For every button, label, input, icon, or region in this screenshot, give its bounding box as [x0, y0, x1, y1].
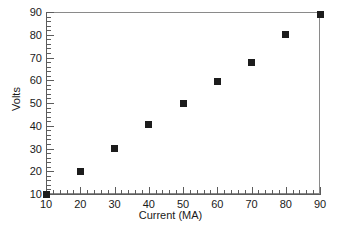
y-minor-tick — [47, 71, 51, 72]
x-minor-tick — [306, 190, 307, 194]
x-minor-tick — [128, 190, 129, 194]
y-major-tick — [47, 171, 54, 172]
y-minor-tick — [47, 130, 51, 131]
y-minor-tick — [47, 139, 51, 140]
x-major-tick — [252, 187, 253, 194]
y-minor-tick — [47, 85, 51, 86]
x-minor-tick — [101, 190, 102, 194]
y-tick-label: 20 — [23, 166, 42, 177]
y-minor-tick — [47, 94, 51, 95]
y-major-tick — [47, 126, 54, 127]
y-minor-tick — [47, 62, 51, 63]
x-minor-tick — [190, 190, 191, 194]
x-minor-tick — [94, 190, 95, 194]
y-minor-tick — [47, 185, 51, 186]
x-minor-tick — [108, 190, 109, 194]
data-point — [248, 59, 255, 66]
y-tick-label: 50 — [23, 98, 42, 109]
y-major-tick — [47, 12, 54, 13]
y-minor-tick — [47, 98, 51, 99]
y-tick-label: 40 — [23, 120, 42, 131]
y-minor-tick — [47, 48, 51, 49]
y-minor-tick — [47, 162, 51, 163]
y-minor-tick — [47, 30, 51, 31]
y-minor-tick — [47, 112, 51, 113]
x-minor-tick — [135, 190, 136, 194]
y-minor-tick — [47, 67, 51, 68]
y-minor-tick — [47, 108, 51, 109]
x-minor-tick — [238, 190, 239, 194]
x-minor-tick — [60, 190, 61, 194]
y-minor-tick — [47, 53, 51, 54]
y-tick-label: 30 — [23, 143, 42, 154]
x-minor-tick — [67, 190, 68, 194]
y-tick-label: 70 — [23, 52, 42, 63]
data-point — [214, 78, 221, 85]
x-minor-tick — [197, 190, 198, 194]
y-tick-label: 10 — [23, 189, 42, 200]
x-minor-tick — [293, 190, 294, 194]
x-minor-tick — [162, 190, 163, 194]
x-minor-tick — [169, 190, 170, 194]
y-tick-label: 90 — [23, 7, 42, 18]
y-minor-tick — [47, 153, 51, 154]
x-minor-tick — [279, 190, 280, 194]
x-minor-tick — [87, 190, 88, 194]
data-point — [77, 168, 84, 175]
data-point — [317, 11, 324, 18]
x-minor-tick — [299, 190, 300, 194]
data-point — [111, 145, 118, 152]
y-minor-tick — [47, 21, 51, 22]
y-major-tick — [47, 149, 54, 150]
y-minor-tick — [47, 180, 51, 181]
y-minor-tick — [47, 76, 51, 77]
x-minor-tick — [231, 190, 232, 194]
x-minor-tick — [245, 190, 246, 194]
x-major-tick — [286, 187, 287, 194]
y-axis-title: Volts — [10, 69, 22, 129]
y-minor-tick — [47, 117, 51, 118]
y-minor-tick — [47, 26, 51, 27]
y-minor-tick — [47, 176, 51, 177]
x-minor-tick — [258, 190, 259, 194]
x-minor-tick — [272, 190, 273, 194]
y-major-tick — [47, 58, 54, 59]
y-minor-tick — [47, 121, 51, 122]
x-minor-tick — [313, 190, 314, 194]
x-axis-title: Current (MA) — [0, 209, 341, 221]
data-point — [145, 121, 152, 128]
x-minor-tick — [265, 190, 266, 194]
y-minor-tick — [47, 135, 51, 136]
x-major-tick — [80, 187, 81, 194]
x-minor-tick — [142, 190, 143, 194]
data-point — [180, 100, 187, 107]
y-major-tick — [47, 80, 54, 81]
x-minor-tick — [73, 190, 74, 194]
data-point — [43, 191, 50, 198]
y-tick-label: 60 — [23, 75, 42, 86]
x-minor-tick — [210, 190, 211, 194]
y-major-tick — [47, 103, 54, 104]
x-major-tick — [217, 187, 218, 194]
x-major-tick — [320, 187, 321, 194]
data-point — [282, 31, 289, 38]
scatter-chart: 102030405060708090102030405060708090 Cur… — [0, 0, 341, 231]
y-minor-tick — [47, 44, 51, 45]
y-minor-tick — [47, 167, 51, 168]
y-minor-tick — [47, 158, 51, 159]
x-minor-tick — [121, 190, 122, 194]
x-minor-tick — [224, 190, 225, 194]
y-major-tick — [47, 35, 54, 36]
x-major-tick — [115, 187, 116, 194]
x-minor-tick — [156, 190, 157, 194]
y-minor-tick — [47, 144, 51, 145]
x-minor-tick — [176, 190, 177, 194]
y-tick-label: 80 — [23, 29, 42, 40]
x-major-tick — [149, 187, 150, 194]
y-minor-tick — [47, 39, 51, 40]
x-axis-spine — [46, 194, 321, 195]
x-major-tick — [183, 187, 184, 194]
y-minor-tick — [47, 17, 51, 18]
x-minor-tick — [204, 190, 205, 194]
y-minor-tick — [47, 89, 51, 90]
